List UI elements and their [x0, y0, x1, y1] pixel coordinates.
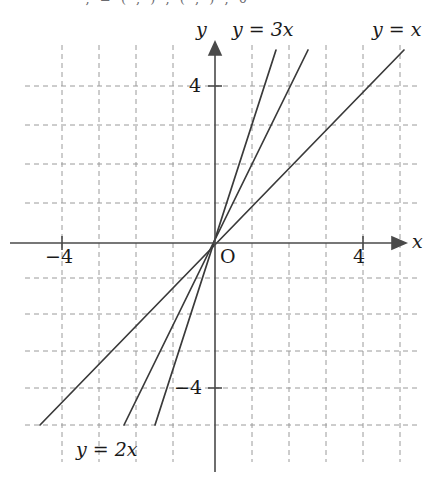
- tick-label-y-neg4: −4: [174, 376, 202, 398]
- graph-canvas: [0, 0, 444, 483]
- curve-label-y-equals-x: y = x: [372, 18, 421, 40]
- y-axis-arrowhead: [209, 42, 221, 55]
- curve-y-equals-x: [40, 50, 404, 425]
- x-axis-arrowhead: [392, 237, 406, 249]
- linear-functions-graph-figure: · · · · · · , = ( , ) , ( , ) , 0: [0, 0, 444, 483]
- x-axis-label: x: [412, 230, 423, 252]
- tick-label-x-neg4: −4: [45, 245, 73, 267]
- curve-label-y-equals-2x: y = 2x: [76, 438, 138, 460]
- curve-label-y-equals-3x: y = 3x: [232, 18, 294, 40]
- origin-label: O: [220, 245, 236, 267]
- tick-label-x-pos4: 4: [353, 245, 365, 267]
- y-axis-label: y: [196, 18, 207, 40]
- curve-group: [40, 50, 404, 425]
- tick-label-y-pos4: 4: [189, 74, 201, 96]
- axis-tick-marks: [62, 86, 363, 388]
